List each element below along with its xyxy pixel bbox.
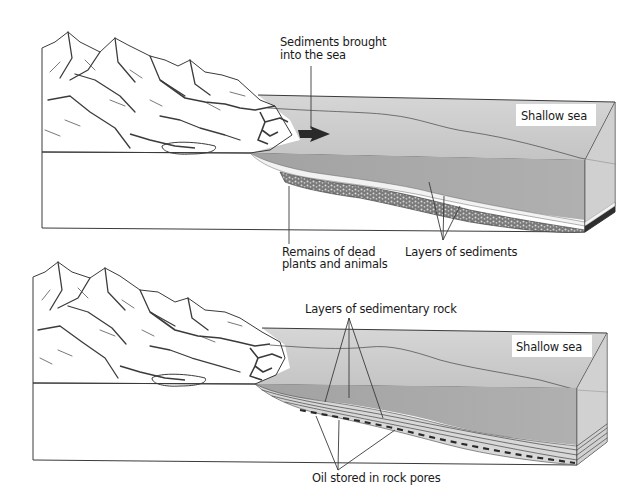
label-shallow-sea-bottom: Shallow sea [516,340,582,354]
label-plants-and-animals: plants and animals [282,257,388,271]
label-shallow-sea-top: Shallow sea [521,109,587,123]
label-layers-of-sediments: Layers of sediments [405,245,517,259]
panel-sediment-deposition: Sediments brought into the sea Shallow s… [42,32,615,271]
panel-sedimentary-rock-oil: Layers of sedimentary rock Shallow sea O… [33,262,607,485]
oil-formation-diagram: Sediments brought into the sea Shallow s… [0,0,644,504]
mountain-range [33,262,285,384]
label-oil-stored-in-rock-pores: Oil stored in rock pores [312,471,441,485]
label-layers-of-sedimentary-rock: Layers of sedimentary rock [305,302,457,316]
mountain-range [42,32,292,153]
label-into-the-sea: into the sea [280,48,346,62]
label-sediments-brought: Sediments brought [280,35,387,49]
